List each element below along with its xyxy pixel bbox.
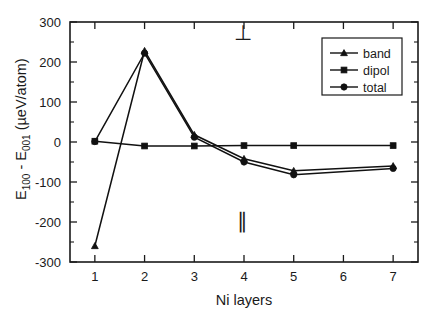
data-point-total <box>241 159 247 165</box>
chart-legend: banddipoltotal <box>322 38 402 95</box>
y-tick-label: 300 <box>39 15 61 30</box>
y-axis-title: E100 - E001 (µeV/atom) <box>13 58 32 200</box>
y-title-sub-1: 100 <box>21 173 32 190</box>
legend-marker-dipol <box>341 67 347 73</box>
data-point-dipol <box>191 143 197 149</box>
legend-marker-total <box>341 84 347 90</box>
x-title-label: Ni layers <box>216 292 272 308</box>
y-tick-label: 100 <box>39 95 61 110</box>
y-title-part-1: E <box>13 190 29 200</box>
svg-text:E100 - E001 (µeV/atom): E100 - E001 (µeV/atom) <box>13 58 32 200</box>
y-tick-label: -200 <box>35 215 61 230</box>
data-point-total <box>141 50 147 56</box>
data-point-dipol <box>142 143 148 149</box>
data-point-dipol <box>291 143 297 149</box>
y-axis-tick-labels: -300-200-1000100200300 <box>35 15 61 270</box>
perpendicular-annotation: ⊥ <box>234 21 252 44</box>
x-axis-tick-labels: 1234567 <box>91 269 397 284</box>
x-tick-label: 7 <box>390 269 397 284</box>
figure-container: -300-200-1000100200300 1234567 ⊥∥ E100 -… <box>0 0 438 322</box>
data-point-total <box>92 138 98 144</box>
y-tick-label: 0 <box>54 135 61 150</box>
x-tick-label: 4 <box>240 269 247 284</box>
data-point-total <box>291 172 297 178</box>
x-tick-label: 3 <box>191 269 198 284</box>
y-title-part-2: - E <box>13 151 29 174</box>
data-point-total <box>390 165 396 171</box>
x-tick-label: 1 <box>91 269 98 284</box>
x-axis-title: Ni layers <box>216 292 272 308</box>
data-point-dipol <box>390 143 396 149</box>
x-tick-label: 2 <box>141 269 148 284</box>
x-tick-label: 6 <box>340 269 347 284</box>
energy-anisotropy-line-chart: -300-200-1000100200300 1234567 ⊥∥ E100 -… <box>0 0 438 322</box>
y-tick-label: 200 <box>39 55 61 70</box>
y-tick-label: -100 <box>35 175 61 190</box>
y-title-sub-2: 001 <box>21 134 32 151</box>
y-tick-label: -300 <box>35 255 61 270</box>
parallel-annotation: ∥ <box>237 209 248 233</box>
legend-label-total: total <box>363 81 387 95</box>
x-tick-label: 5 <box>290 269 297 284</box>
y-title-part-3: (µeV/atom) <box>13 58 29 134</box>
data-point-total <box>191 134 197 140</box>
legend-label-dipol: dipol <box>363 64 389 78</box>
legend-label-band: band <box>363 47 391 61</box>
data-point-dipol <box>241 143 247 149</box>
